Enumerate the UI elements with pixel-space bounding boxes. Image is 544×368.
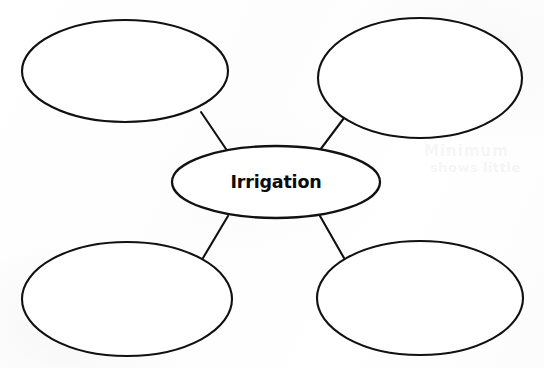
center-topic-label: Irrigation (231, 172, 322, 192)
worksheet-page: Irrigation Minimum shows little (0, 0, 544, 368)
branch-ellipse-top-right[interactable] (318, 18, 522, 138)
branch-ellipse-top-left[interactable] (22, 20, 228, 122)
concept-web-diagram: Irrigation (0, 0, 544, 368)
connector-top-right (320, 118, 344, 150)
branch-ellipse-bottom-left[interactable] (22, 242, 232, 356)
connector-bottom-right (320, 216, 344, 258)
branch-ellipse-bottom-right[interactable] (317, 241, 523, 355)
connector-bottom-left (203, 216, 228, 258)
connector-top-left (201, 112, 226, 149)
